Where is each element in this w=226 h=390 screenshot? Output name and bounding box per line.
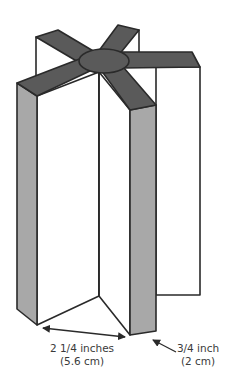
arm-thickness-arrow <box>153 340 176 352</box>
front-center-panel <box>99 72 130 335</box>
back-right-panel <box>156 67 200 295</box>
arm-thickness-label-line2: (2 cm) <box>181 355 215 367</box>
right-column-side <box>130 105 156 335</box>
panel-width-label-line2: (5.6 cm) <box>60 355 104 367</box>
diagram-canvas: 2 1/4 inches (5.6 cm) 3/4 inch (2 cm) <box>0 0 226 390</box>
center-hub <box>79 49 129 73</box>
left-column-side <box>17 83 37 325</box>
panel-width-arrow <box>43 328 125 337</box>
arm-right <box>120 52 200 68</box>
panel-width-label-line1: 2 1/4 inches <box>50 342 114 354</box>
front-left-panel <box>37 72 99 325</box>
arm-thickness-label-line1: 3/4 inch <box>177 342 219 354</box>
